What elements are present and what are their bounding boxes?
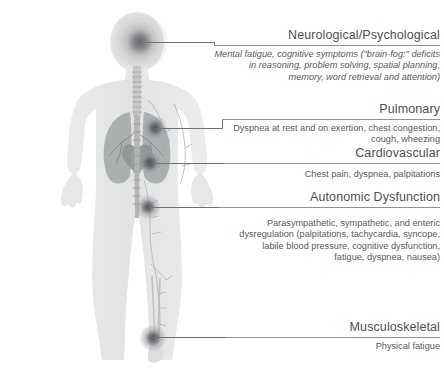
leader-line-cardiovascular	[150, 163, 225, 164]
label-body-cardiovascular: Chest pain, dyspnea, palpitations	[228, 169, 440, 180]
leader-line-autonomic	[148, 207, 220, 208]
label-cardiovascular: Cardiovascular	[210, 146, 440, 161]
label-body-block-cardiovascular: Chest pain, dyspnea, palpitations	[228, 167, 440, 180]
label-body-neurological: Mental fatigue, cognitive symptoms ("bra…	[212, 49, 440, 83]
label-body-musculoskeletal: Physical fatigue	[228, 341, 440, 352]
leg-marker	[140, 325, 166, 351]
leader-line-neurological	[140, 42, 215, 43]
rule-neurological	[214, 45, 440, 46]
human-body-figure	[52, 8, 222, 368]
label-autonomic: Autonomic Dysfunction	[210, 190, 440, 205]
label-body-block-neurological: Mental fatigue, cognitive symptoms ("bra…	[212, 47, 440, 83]
leader-line-musculoskeletal	[152, 337, 226, 338]
leader-line-pulmonary-bend	[222, 119, 223, 129]
label-heading-musculoskeletal: Musculoskeletal	[210, 320, 440, 335]
label-heading-neurological: Neurological/Psychological	[210, 28, 440, 43]
diagram-canvas: Neurological/Psychological Mental fatigu…	[0, 0, 444, 372]
label-body-autonomic: Parasympathetic, sympathetic, and enteri…	[236, 218, 440, 264]
label-body-block-pulmonary: Dyspnea at rest and on exertion, chest c…	[228, 121, 440, 146]
leader-line-pulmonary	[155, 128, 223, 129]
rule-cardiovascular	[224, 163, 440, 164]
vascular-network	[144, 100, 192, 352]
rule-pulmonary	[222, 119, 440, 120]
label-pulmonary: Pulmonary	[210, 102, 440, 117]
label-heading-pulmonary: Pulmonary	[210, 102, 440, 117]
label-body-block-musculoskeletal: Physical fatigue	[228, 339, 440, 352]
label-musculoskeletal: Musculoskeletal	[210, 320, 440, 335]
rule-autonomic	[219, 207, 440, 208]
label-neurological: Neurological/Psychological	[210, 28, 440, 43]
internal-organs	[104, 66, 192, 363]
label-body-pulmonary: Dyspnea at rest and on exertion, chest c…	[228, 123, 440, 146]
label-heading-cardiovascular: Cardiovascular	[210, 146, 440, 161]
label-heading-autonomic: Autonomic Dysfunction	[210, 190, 440, 205]
body-silhouette	[61, 12, 213, 360]
rule-musculoskeletal	[226, 337, 440, 338]
label-body-block-autonomic: Parasympathetic, sympathetic, and enteri…	[236, 216, 440, 264]
